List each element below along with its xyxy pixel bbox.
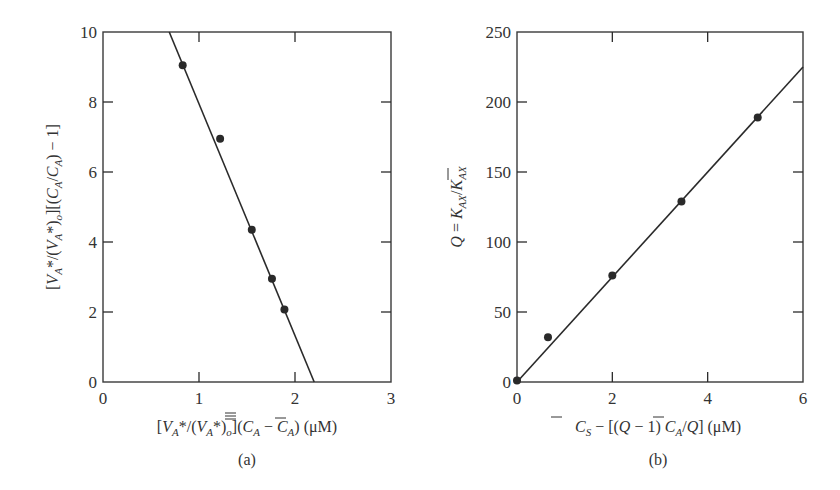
y-tick-label: 150	[486, 163, 512, 182]
panel-a-y-ticks: 0246810	[80, 23, 391, 392]
fit-line	[169, 32, 314, 382]
panel-b-y-ticks: 050100150200250	[486, 23, 804, 392]
y-tick-label: 8	[89, 93, 98, 112]
panel-a-y-axis-label: [VA*/(VA*)o][(CA/CA) − 1]	[44, 124, 64, 290]
panel-b: 0246 050100150200250 CS − [(Q − 1) CA/Q]…	[448, 23, 807, 469]
y-tick-label: 2	[89, 303, 98, 322]
fit-line	[517, 67, 803, 382]
panel-a-x-axis-label: [VA*/(VA*)o](CA − CA) (μM)	[157, 418, 337, 438]
y-tick-label: 10	[80, 23, 97, 42]
y-tick-label: 0	[503, 373, 512, 392]
y-tick-label: 200	[486, 93, 512, 112]
y-tick-label: 50	[494, 303, 511, 322]
panel-a: 0123 0246810 [VA*/(VA*)o](CA − CA) (μM) …	[44, 23, 395, 469]
x-tick-label: 2	[291, 389, 300, 408]
x-tick-label: 3	[387, 389, 396, 408]
y-tick-label: 6	[89, 163, 98, 182]
panel-b-frame	[517, 32, 803, 382]
panel-b-x-ticks: 0246	[513, 32, 808, 408]
y-tick-label: 0	[89, 373, 98, 392]
panel-b-series	[513, 67, 803, 385]
x-tick-label: 2	[608, 389, 617, 408]
data-point	[216, 135, 224, 143]
x-tick-label: 6	[799, 389, 808, 408]
x-tick-label: 0	[513, 389, 522, 408]
panel-a-label: (a)	[238, 451, 256, 469]
y-tick-label: 250	[486, 23, 512, 42]
data-point	[544, 333, 552, 341]
panel-b-x-axis-label: CS − [(Q − 1) CA/Q] (μM)	[575, 418, 741, 438]
x-tick-label: 0	[99, 389, 108, 408]
panel-b-y-axis-label: Q = KAX/KAX	[448, 165, 468, 248]
panel-a-frame	[103, 32, 391, 382]
x-tick-label: 1	[195, 389, 204, 408]
panel-a-series	[169, 32, 314, 382]
panel-b-label: (b)	[649, 451, 668, 469]
y-tick-label: 4	[89, 233, 98, 252]
figure-canvas: 0123 0246810 [VA*/(VA*)o](CA − CA) (μM) …	[0, 0, 840, 490]
y-tick-label: 100	[486, 233, 512, 252]
x-tick-label: 4	[703, 389, 712, 408]
